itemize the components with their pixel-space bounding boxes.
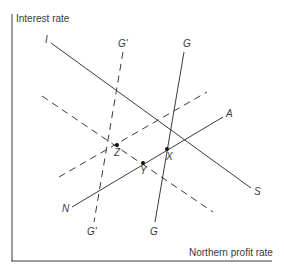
label-s: S [254,186,261,197]
curve-na-shifted [59,92,207,177]
curve-is-shifted [42,96,213,212]
curve-na [72,117,223,207]
curve-is [51,43,251,188]
x-axis-label: Northern profit rate [189,247,273,258]
label-n: N [62,203,69,214]
label-g-prime-bottom: G' [87,226,97,237]
label-a: A [226,108,233,119]
curve-gg [155,52,184,222]
label-g-bottom: G [150,226,158,237]
label-i: I [45,34,48,45]
label-point-y: Y [140,165,147,176]
label-point-z: Z [114,147,120,158]
label-g-prime-top: G' [118,38,128,49]
label-point-x: X [166,151,173,162]
y-axis-label: Interest rate [16,13,69,24]
label-g-top: G [183,38,191,49]
diagram-canvas [0,0,284,276]
